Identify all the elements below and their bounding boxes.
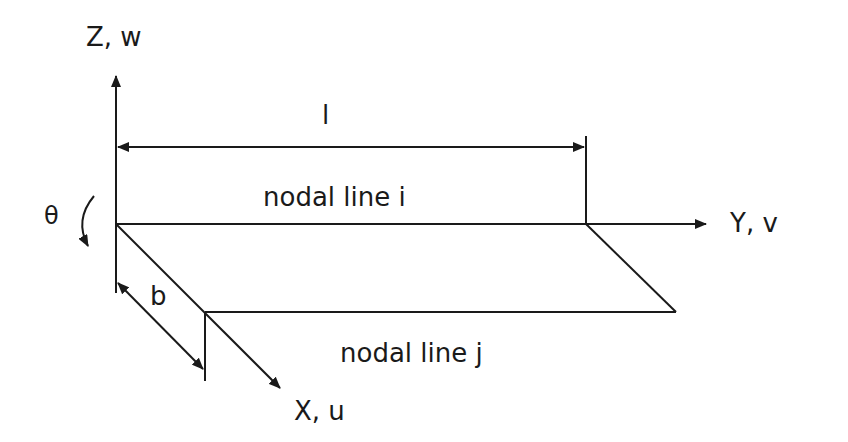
strip-element-diagram: Z, w Y, v X, u l b θ nodal line i nodal … (0, 0, 848, 442)
curved-arrow-icon (82, 196, 94, 246)
nodal-line-j-label: nodal line j (340, 338, 483, 368)
z-axis-label: Z, w (86, 22, 142, 52)
width-label: b (150, 281, 167, 311)
y-axis: Y, v (116, 208, 778, 238)
y-axis-label: Y, v (729, 208, 778, 238)
x-axis-label: X, u (294, 396, 345, 426)
strip-element-outline (205, 224, 676, 312)
width-dimension: b (118, 281, 205, 381)
x-axis: X, u (116, 224, 345, 426)
length-label: l (322, 100, 329, 130)
rotation-label: θ (44, 202, 59, 230)
strip-right-edge (586, 224, 676, 312)
z-axis: Z, w (86, 22, 142, 293)
rotation-indicator: θ (44, 196, 94, 246)
nodal-line-i-label: nodal line i (263, 182, 406, 212)
